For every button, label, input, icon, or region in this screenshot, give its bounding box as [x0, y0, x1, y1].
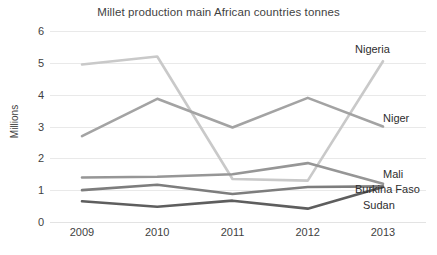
- series-label-sudan: Sudan: [363, 199, 395, 211]
- series-line-nigeria: [82, 56, 383, 180]
- series-label-niger: Niger: [383, 112, 409, 124]
- series-line-niger: [82, 98, 383, 136]
- series-label-mali: Mali: [383, 168, 403, 180]
- series-line-sudan: [82, 187, 383, 209]
- series-label-nigeria: Nigeria: [355, 43, 390, 55]
- plot-area: [0, 0, 437, 255]
- series-line-burkina-faso: [82, 185, 383, 194]
- series-line-mali: [82, 163, 383, 184]
- series-label-burkina-faso: Burkina Faso: [355, 183, 420, 195]
- line-chart: Millet production main African countries…: [0, 0, 437, 255]
